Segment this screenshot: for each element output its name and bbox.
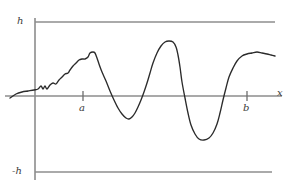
x-axis-label: x: [277, 88, 283, 98]
lower-bound-label: -h: [12, 166, 22, 176]
upper-bound-label: h: [17, 16, 23, 26]
function-curve: [10, 41, 275, 140]
graph-canvas: [0, 0, 290, 194]
figure-container: h -h a b x: [0, 0, 290, 194]
tick-label-a: a: [79, 103, 85, 113]
tick-label-b: b: [243, 103, 249, 113]
